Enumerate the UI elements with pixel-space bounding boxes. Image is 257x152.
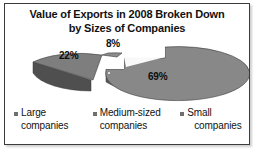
pie-label-medium: 22% [59, 50, 78, 61]
legend-label-small: Small companies [187, 107, 241, 132]
legend-label-large: Large companies [21, 107, 68, 132]
legend-swatch-icon [180, 112, 184, 116]
legend-label-medium: Medium-sized companies [100, 107, 161, 132]
pie-label-small: 8% [106, 38, 120, 49]
chart-title-line-1: Value of Exports in 2008 Broken Down [5, 8, 249, 22]
pie-chart-plot-area: 69% 22% 8% [5, 35, 250, 110]
legend-item-large-companies: Large companies [14, 107, 93, 132]
legend-item-medium-sized-companies: Medium-sized companies [93, 107, 181, 132]
chart-title-line-2: by Sizes of Companies [5, 22, 249, 36]
chart-title: Value of Exports in 2008 Broken Down by … [5, 8, 249, 35]
chart-legend: Large companies Medium-sized companies S… [5, 107, 250, 139]
pie-slice-small [102, 53, 122, 57]
legend-swatch-icon [14, 112, 18, 116]
legend-swatch-icon [93, 112, 97, 116]
chart-figure: Value of Exports in 2008 Broken Down by … [4, 3, 250, 145]
legend-item-small-companies: Small companies [180, 107, 250, 132]
pie-center-marker [108, 72, 110, 74]
pie-slice-large [106, 47, 250, 101]
pie-chart-graphic [5, 35, 250, 110]
pie-label-large: 69% [148, 71, 167, 82]
